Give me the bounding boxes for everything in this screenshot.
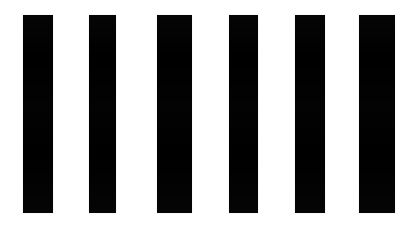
image-canvas (0, 0, 413, 229)
bars-layer (0, 0, 413, 229)
bar-6 (359, 15, 395, 213)
bar-5 (295, 15, 325, 213)
bar-2 (89, 15, 116, 213)
bar-3 (157, 15, 192, 213)
bar-4 (229, 15, 258, 213)
bar-1 (23, 15, 53, 213)
